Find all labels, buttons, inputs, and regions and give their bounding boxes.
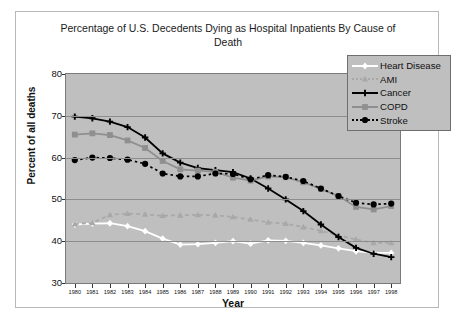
legend-item-heart-disease[interactable]: Heart Disease bbox=[351, 59, 446, 73]
x-tick-mark bbox=[163, 284, 164, 288]
legend-symbol-icon bbox=[351, 101, 379, 113]
x-tick-mark bbox=[92, 284, 93, 288]
y-axis-ticks: 304050607080 bbox=[35, 73, 62, 284]
legend-label: Heart Disease bbox=[379, 60, 441, 71]
legend-symbol-icon bbox=[351, 73, 379, 85]
x-tick-mark bbox=[110, 284, 111, 288]
legend-item-copd[interactable]: COPD bbox=[351, 100, 446, 114]
y-tick-label: 30 bbox=[38, 277, 62, 288]
x-tick-mark bbox=[145, 284, 146, 288]
legend-item-ami[interactable]: AMI bbox=[351, 73, 446, 87]
legend-item-cancer[interactable]: Cancer bbox=[351, 86, 446, 100]
x-tick-mark bbox=[286, 284, 287, 288]
x-tick-mark bbox=[75, 284, 76, 288]
x-axis-title: Year bbox=[65, 297, 401, 309]
y-tick-label: 80 bbox=[38, 68, 62, 79]
plot-wrapper: Percent of all deaths 304050607080 19801… bbox=[16, 12, 440, 309]
gridline bbox=[66, 158, 400, 159]
legend-label: Cancer bbox=[379, 87, 411, 98]
legend-label: COPD bbox=[379, 101, 408, 112]
x-tick-mark bbox=[215, 284, 216, 288]
legend-label: Stroke bbox=[379, 115, 408, 126]
x-tick-mark bbox=[251, 284, 252, 288]
x-tick-mark bbox=[391, 284, 392, 288]
y-tick-label: 70 bbox=[38, 110, 62, 121]
legend-item-stroke[interactable]: Stroke bbox=[351, 113, 446, 127]
x-tick-mark bbox=[233, 284, 234, 288]
series-heart-disease bbox=[72, 220, 395, 256]
x-tick-mark bbox=[374, 284, 375, 288]
y-tick-label: 40 bbox=[38, 235, 62, 246]
legend-symbol-icon bbox=[351, 87, 379, 99]
x-tick-mark bbox=[338, 284, 339, 288]
legend-symbol-icon bbox=[351, 60, 379, 72]
x-tick-mark bbox=[180, 284, 181, 288]
x-tick-mark bbox=[128, 284, 129, 288]
chart-frame: Percentage of U.S. Decedents Dying as Ho… bbox=[15, 11, 439, 308]
x-tick-mark bbox=[268, 284, 269, 288]
x-tick-mark bbox=[198, 284, 199, 288]
y-tick-label: 60 bbox=[38, 152, 62, 163]
x-tick-mark bbox=[356, 284, 357, 288]
legend-symbol-icon bbox=[351, 114, 379, 126]
legend-label: AMI bbox=[379, 74, 397, 85]
chart-legend[interactable]: Heart DiseaseAMICancerCOPDStroke bbox=[347, 55, 451, 131]
x-tick-mark bbox=[303, 284, 304, 288]
gridline bbox=[66, 199, 400, 200]
gridline bbox=[66, 241, 400, 242]
y-tick-label: 50 bbox=[38, 193, 62, 204]
x-tick-mark bbox=[321, 284, 322, 288]
x-tick-label: 1998 bbox=[376, 289, 406, 295]
